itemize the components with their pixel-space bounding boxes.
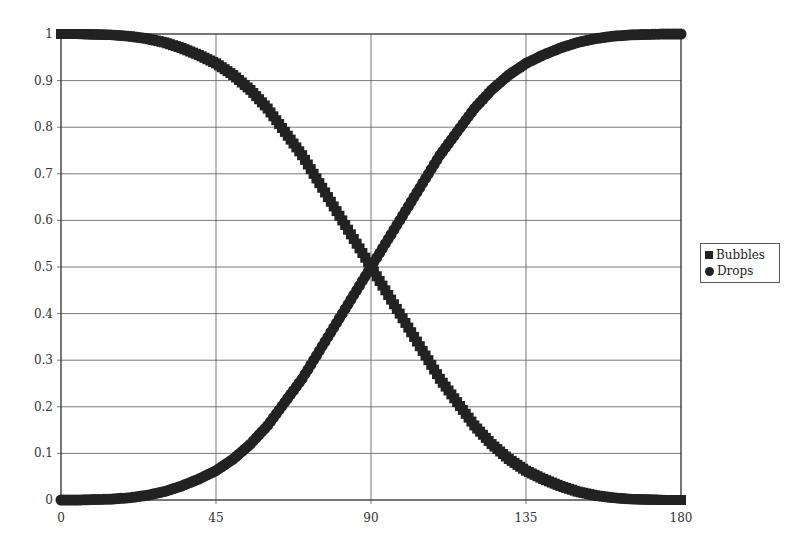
y-tick-label: 0.5	[34, 260, 53, 274]
y-tick-label: 0.9	[34, 74, 53, 88]
y-tick-label: 0.8	[34, 120, 53, 134]
y-tick-label: 0	[45, 493, 53, 507]
y-tick-label: 0.2	[34, 400, 53, 414]
y-tick-label: 0.7	[34, 167, 53, 181]
legend: Bubbles Drops	[700, 243, 780, 283]
legend-label-drops: Drops	[717, 264, 753, 278]
y-tick-label: 0.3	[34, 353, 53, 367]
x-tick-label: 0	[57, 511, 65, 525]
square-marker-icon	[705, 251, 713, 259]
legend-label-bubbles: Bubbles	[716, 248, 765, 262]
x-tick-label: 180	[670, 511, 693, 525]
x-tick-label: 90	[363, 511, 378, 525]
legend-item-bubbles: Bubbles	[705, 247, 775, 263]
legend-item-drops: Drops	[705, 263, 775, 279]
circle-marker-icon	[705, 267, 714, 276]
y-tick-label: 0.1	[34, 446, 53, 460]
y-tick-label: 1	[45, 27, 53, 41]
y-tick-label: 0.6	[34, 213, 53, 227]
y-tick-label: 0.4	[34, 307, 53, 321]
chart-canvas: 00.10.20.30.40.50.60.70.80.9104590135180	[0, 0, 798, 550]
x-tick-label: 45	[208, 511, 223, 525]
x-tick-label: 135	[515, 511, 538, 525]
